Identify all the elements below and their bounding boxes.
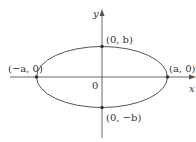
origin-label: 0 [92, 80, 98, 91]
y-axis-arrow-icon [100, 9, 105, 16]
label-bottom-covertex: (0, −b) [106, 112, 141, 123]
point-left-vertex [35, 75, 39, 79]
x-axis-label: x [189, 83, 195, 94]
point-right-vertex [166, 75, 170, 79]
x-axis-arrow-icon [189, 75, 196, 80]
label-right-vertex: (a, 0) [169, 63, 196, 74]
label-left-vertex: (−a, 0) [8, 63, 43, 74]
y-axis-label: y [92, 8, 99, 19]
point-top-covertex [100, 45, 104, 49]
label-top-covertex: (0, b) [106, 34, 133, 45]
point-bottom-covertex [100, 106, 104, 110]
ellipse-diagram: y x 0 (0, b) (−a, 0) (a, 0) (0, −b) [0, 0, 196, 142]
